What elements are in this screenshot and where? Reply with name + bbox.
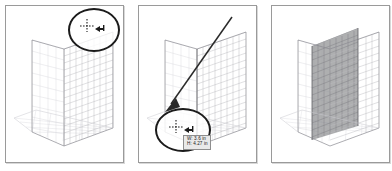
panel-3[interactable] — [271, 5, 390, 163]
move-plane-cursor-icon — [78, 18, 106, 38]
tooltip-height-label: H: 4.27 in — [187, 142, 208, 147]
figure-root: W: 3.6 in H: 4.27 in — [0, 0, 392, 171]
magnifier-callout — [68, 8, 120, 52]
dimension-tooltip: W: 3.6 in H: 4.27 in — [183, 135, 211, 150]
perspective-grid-3[interactable] — [272, 6, 389, 162]
panel-2[interactable]: W: 3.6 in H: 4.27 in — [138, 5, 257, 163]
panel-1[interactable] — [5, 5, 124, 163]
